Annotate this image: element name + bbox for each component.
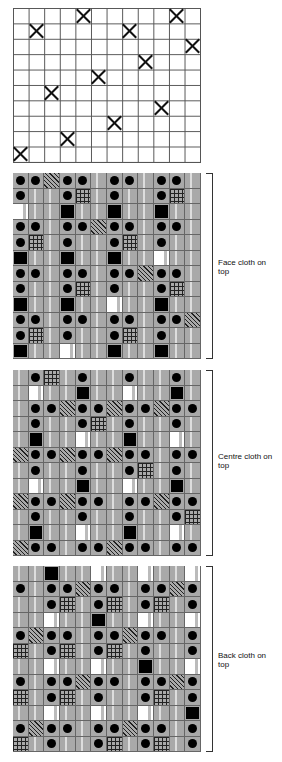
weave-cell-gray: [123, 582, 139, 598]
lift-mark-icon: [13, 147, 29, 162]
weave-cell-gray: [123, 597, 139, 613]
weave-cell-white-square: [138, 566, 154, 582]
weave-cell-dot: [44, 541, 60, 557]
weave-cell-dot: [138, 582, 154, 598]
face-cloth-label: Face cloth on top: [218, 258, 278, 276]
weave-cell-gray: [44, 220, 60, 236]
weave-cell-dot: [91, 597, 107, 613]
weave-cell-dot: [185, 737, 201, 753]
weave-cell-black-square: [107, 251, 123, 267]
weave-cell-black-square: [154, 297, 170, 313]
weave-cell-dot: [13, 628, 29, 644]
weave-cell-cross-hatch: [13, 737, 29, 753]
weave-cell-gray: [185, 386, 201, 402]
weave-cell-gray: [91, 266, 107, 282]
weave-cell-dot: [138, 541, 154, 557]
weave-cell-gray: [107, 510, 123, 526]
weave-cell-cross-hatch: [29, 328, 45, 344]
weave-cell-dot: [29, 417, 45, 433]
weave-cell-gray: [60, 541, 76, 557]
weave-cell-dot: [138, 737, 154, 753]
weave-cell-gray: [60, 463, 76, 479]
weave-cell-cross-hatch: [60, 690, 76, 706]
weave-cell-gray: [154, 659, 170, 675]
weave-cell-gray: [123, 344, 139, 360]
weave-cell-black-square: [123, 432, 139, 448]
weave-cell-gray: [60, 737, 76, 753]
weave-cell-diagonal-hatch: [154, 401, 170, 417]
weave-cell-dot: [29, 370, 45, 386]
weave-cell-dot: [107, 220, 123, 236]
weave-cell-gray: [76, 344, 92, 360]
weave-cell-gray: [107, 479, 123, 495]
weave-cell-gray: [107, 525, 123, 541]
weave-cell-gray: [60, 613, 76, 629]
weave-cell-gray: [44, 432, 60, 448]
weave-cell-gray: [154, 613, 170, 629]
weave-cell-dot: [123, 541, 139, 557]
weave-cell-gray: [154, 644, 170, 660]
weave-cell-gray: [170, 297, 186, 313]
weave-cell-dot: [154, 266, 170, 282]
weave-cell-gray: [60, 510, 76, 526]
weave-cell-diagonal-hatch: [107, 541, 123, 557]
weave-cell-dot: [107, 189, 123, 205]
weave-cell-gray: [185, 463, 201, 479]
weave-cell-dot: [91, 721, 107, 737]
weave-cell-gray: [123, 659, 139, 675]
weave-cell-diagonal-hatch: [91, 220, 107, 236]
weave-cell-dot: [29, 448, 45, 464]
weave-cell-dot: [170, 220, 186, 236]
weave-cell-dot: [13, 282, 29, 298]
weave-cell-gray: [13, 510, 29, 526]
weave-cell-gray: [138, 235, 154, 251]
weave-cell-dot: [185, 675, 201, 691]
weave-cell-gray: [91, 204, 107, 220]
weave-cell-diagonal-hatch: [170, 675, 186, 691]
weave-cell-black-square: [76, 386, 92, 402]
weave-cell-dot: [44, 401, 60, 417]
weave-cell-dot: [60, 721, 76, 737]
weave-cell-dot: [13, 313, 29, 329]
weave-cell-gray: [91, 328, 107, 344]
weave-cell-dot: [60, 173, 76, 189]
weave-cell-gray: [154, 566, 170, 582]
weave-cell-dot: [29, 220, 45, 236]
weave-cell-gray: [29, 282, 45, 298]
weave-cell-dot: [170, 173, 186, 189]
weave-cell-dot: [44, 628, 60, 644]
weave-cell-dot: [107, 313, 123, 329]
weave-cell-dot: [170, 370, 186, 386]
weave-cell-gray: [29, 597, 45, 613]
weave-cell-dot: [185, 494, 201, 510]
weave-cell-dot: [13, 582, 29, 598]
weave-cell-gray: [91, 297, 107, 313]
weave-cell-cross-hatch: [91, 417, 107, 433]
weave-cell-gray: [170, 613, 186, 629]
weave-cell-gray: [44, 510, 60, 526]
weave-cell-diagonal-hatch: [76, 675, 92, 691]
weave-cell-gray: [44, 266, 60, 282]
weave-cell-gray: [76, 328, 92, 344]
weave-cell-gray: [44, 235, 60, 251]
weave-cell-gray: [170, 235, 186, 251]
weave-cell-cross-hatch: [13, 690, 29, 706]
weave-cell-gray: [185, 525, 201, 541]
weave-cell-black-square: [170, 479, 186, 495]
weave-cell-dot: [123, 220, 139, 236]
weave-cell-gray: [138, 386, 154, 402]
weave-cell-gray: [138, 297, 154, 313]
weave-cell-gray: [60, 386, 76, 402]
weave-cell-gray: [76, 628, 92, 644]
weave-cell-white-square: [138, 613, 154, 629]
weave-cell-dot: [29, 494, 45, 510]
weave-cell-diagonal-hatch: [29, 628, 45, 644]
weave-cell-dot: [76, 370, 92, 386]
weave-cell-gray: [13, 401, 29, 417]
weave-cell-dot: [107, 628, 123, 644]
weave-cell-diagonal-hatch: [154, 494, 170, 510]
weave-cell-dot: [76, 220, 92, 236]
weave-cell-dot: [91, 690, 107, 706]
weave-cell-gray: [185, 370, 201, 386]
weave-cell-gray: [44, 328, 60, 344]
